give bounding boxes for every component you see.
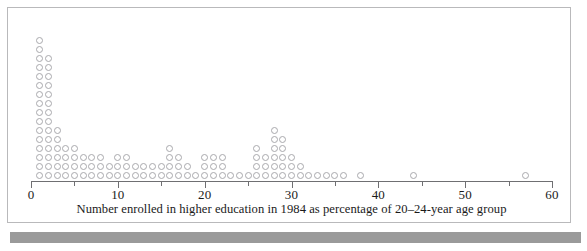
data-dot [36, 145, 43, 152]
data-dot [201, 172, 208, 179]
data-dot [45, 55, 52, 62]
data-dot [36, 163, 43, 170]
data-dot [54, 172, 61, 179]
data-dot [227, 172, 234, 179]
data-dot [288, 154, 295, 161]
data-dot [132, 163, 139, 170]
data-dot [80, 163, 87, 170]
data-dot [36, 100, 43, 107]
x-axis-minor-tick [509, 181, 510, 186]
data-dot [262, 172, 269, 179]
data-dot [54, 127, 61, 134]
data-dot [323, 172, 330, 179]
x-axis-tick-label: 10 [98, 188, 138, 202]
data-dot [88, 154, 95, 161]
data-dot [357, 172, 364, 179]
data-dot [166, 154, 173, 161]
plot-area: 0102030405060 Number enrolled in higher … [0, 0, 587, 251]
data-dot [36, 91, 43, 98]
data-dot [314, 172, 321, 179]
data-dot [175, 154, 182, 161]
data-dot [271, 127, 278, 134]
data-dot [71, 154, 78, 161]
data-dot [166, 172, 173, 179]
x-axis-minor-tick [161, 181, 162, 186]
data-dot [45, 118, 52, 125]
data-dot [271, 145, 278, 152]
data-dot [158, 163, 165, 170]
data-dot [271, 163, 278, 170]
data-dot [271, 136, 278, 143]
data-dot [36, 172, 43, 179]
data-dot [106, 172, 113, 179]
x-axis-tick-label: 40 [358, 188, 398, 202]
data-dot [331, 172, 338, 179]
data-dot [175, 172, 182, 179]
x-axis-tick-label: 0 [11, 188, 51, 202]
data-dot [36, 136, 43, 143]
data-dot [262, 163, 269, 170]
data-dot [149, 172, 156, 179]
data-dot [279, 145, 286, 152]
page-bottom-band [10, 232, 581, 243]
data-dot [158, 172, 165, 179]
data-dot [97, 163, 104, 170]
data-dot [36, 73, 43, 80]
data-dot [522, 172, 529, 179]
data-dot [184, 163, 191, 170]
data-dot [210, 154, 217, 161]
data-dot [71, 172, 78, 179]
data-dot [201, 163, 208, 170]
data-dot [62, 163, 69, 170]
data-dot [97, 154, 104, 161]
data-dot [36, 37, 43, 44]
data-dot [297, 172, 304, 179]
data-dot [288, 172, 295, 179]
data-dot [114, 163, 121, 170]
x-axis-tick-label: 50 [445, 188, 485, 202]
data-dot [36, 118, 43, 125]
data-dot [219, 154, 226, 161]
data-dot [45, 172, 52, 179]
data-dot [271, 154, 278, 161]
data-dot [45, 145, 52, 152]
data-dot [45, 64, 52, 71]
data-dot [114, 172, 121, 179]
data-dot [36, 109, 43, 116]
data-dot [149, 163, 156, 170]
data-dot [271, 172, 278, 179]
data-dot [219, 172, 226, 179]
data-dot [236, 172, 243, 179]
data-dot [253, 154, 260, 161]
data-dot [36, 154, 43, 161]
data-dot [62, 172, 69, 179]
data-dot [279, 154, 286, 161]
x-axis-minor-tick [335, 181, 336, 186]
dot-plot-figure: 0102030405060 Number enrolled in higher … [0, 0, 587, 251]
data-dot [114, 154, 121, 161]
x-axis-tick-label: 60 [532, 188, 572, 202]
data-dot [62, 154, 69, 161]
data-dot [54, 145, 61, 152]
data-dot [123, 163, 130, 170]
data-dot [36, 64, 43, 71]
data-dot [210, 163, 217, 170]
data-dot [36, 82, 43, 89]
data-dot [45, 136, 52, 143]
data-dot [45, 73, 52, 80]
data-dot [253, 163, 260, 170]
data-dot [45, 82, 52, 89]
x-axis-minor-tick [422, 181, 423, 186]
data-dot [410, 172, 417, 179]
data-dot [36, 127, 43, 134]
data-dot [45, 91, 52, 98]
x-axis-caption: Number enrolled in higher education in 1… [31, 202, 552, 217]
data-dot [88, 163, 95, 170]
data-dot [175, 163, 182, 170]
data-dot [71, 145, 78, 152]
data-dot [123, 172, 130, 179]
data-dot [123, 154, 130, 161]
data-dot [71, 163, 78, 170]
data-dot [140, 172, 147, 179]
data-dot [166, 163, 173, 170]
